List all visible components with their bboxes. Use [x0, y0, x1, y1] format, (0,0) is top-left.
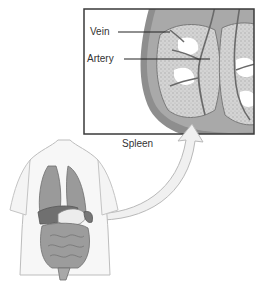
inset-caption: Spleen: [122, 139, 153, 149]
spleen-cross-section: [141, 5, 269, 141]
torso-illustration: [10, 140, 118, 280]
vein-label: Vein: [90, 27, 109, 37]
bladder: [58, 268, 70, 280]
artery-label: Artery: [87, 54, 114, 64]
intestines: [40, 223, 89, 268]
